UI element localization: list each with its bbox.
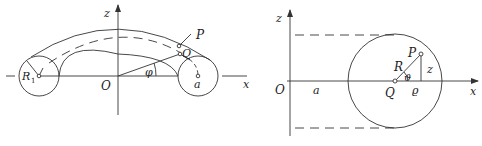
rho-label: ϱ	[412, 84, 419, 97]
a-label-left: a	[194, 78, 201, 91]
a-label-right: a	[313, 84, 320, 97]
point-Q-right	[393, 79, 397, 83]
point-P-left	[177, 44, 181, 48]
phi-label: φ	[145, 66, 153, 79]
right-figure: z x O a Q P R ϑ ϱ z	[275, 10, 478, 136]
left-z-label: z	[103, 7, 110, 20]
theta-label: ϑ	[404, 72, 411, 83]
Q-label-right: Q	[385, 86, 395, 100]
R1-label: R	[21, 70, 30, 83]
z-height-label: z	[426, 63, 433, 76]
R1-subscript: 1	[31, 77, 35, 85]
right-x-label: x	[470, 85, 477, 98]
P-label-left: P	[195, 28, 205, 42]
left-figure: z x O φ P Q a R 1	[6, 5, 250, 115]
right-origin-label: O	[275, 83, 285, 97]
left-origin-label: O	[101, 79, 111, 93]
torus-center-arc	[49, 37, 181, 63]
torus-inner-arc	[59, 50, 178, 76]
Q-label-left: Q	[182, 47, 191, 60]
point-P-right	[419, 52, 423, 56]
P-label-right: P	[407, 46, 417, 60]
torus-diagram: z x O φ P Q a R 1 z x O a Q P R	[0, 0, 482, 146]
left-x-label: x	[243, 78, 250, 91]
R-label: R	[393, 60, 403, 74]
right-z-label: z	[275, 12, 282, 25]
